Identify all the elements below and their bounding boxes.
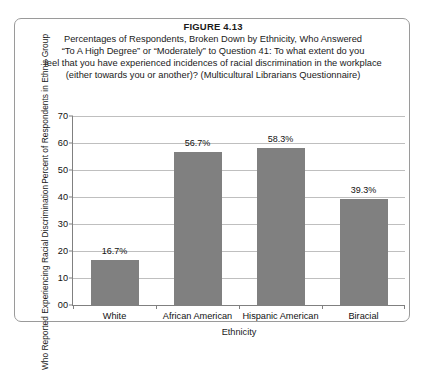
x-category-label: Biracial xyxy=(348,311,378,322)
bar[interactable] xyxy=(340,199,388,305)
x-tick-mark xyxy=(239,305,240,309)
figure-container: FIGURE 4.13 Percentages of Respondents, … xyxy=(14,18,410,322)
figure-caption-line-3: feel that you have experienced incidence… xyxy=(15,57,411,69)
plot-area: 0010203040506070 16.7%56.7%58.3%39.3% Wh… xyxy=(73,116,405,305)
plot-inner: 0010203040506070 16.7%56.7%58.3%39.3% Wh… xyxy=(73,116,405,305)
x-tick-mark xyxy=(73,305,74,309)
bar[interactable] xyxy=(174,152,222,305)
bar-value-label: 16.7% xyxy=(102,246,128,256)
x-tick-mark xyxy=(156,305,157,309)
bar-slot: 16.7% xyxy=(73,116,156,305)
bar-chart: Percent of Respondents in Ethnic Group W… xyxy=(15,91,411,323)
bar-slot: 58.3% xyxy=(239,116,322,305)
figure-number-label: FIGURE 4.13 xyxy=(15,21,411,33)
bar[interactable] xyxy=(257,148,305,305)
bar-value-label: 56.7% xyxy=(185,138,211,148)
figure-caption-line-1: Percentages of Respondents, Broken Down … xyxy=(15,33,411,45)
bar-slot: 56.7% xyxy=(156,116,239,305)
y-tick-label: 10 xyxy=(58,273,68,283)
x-axis-title: Ethnicity xyxy=(73,327,405,338)
y-tick-label: 70 xyxy=(58,111,68,121)
x-category-label: White xyxy=(103,311,127,322)
x-tick-mark xyxy=(404,305,405,309)
x-tick-mark xyxy=(322,305,323,309)
figure-caption-line-2: “To A High Degree” or “Moderately” to Qu… xyxy=(15,45,411,57)
y-axis-title-line-1: Percent of Respondents in Ethnic Group xyxy=(40,34,50,184)
y-tick-label: 50 xyxy=(58,165,68,175)
figure-title-block: FIGURE 4.13 Percentages of Respondents, … xyxy=(15,21,411,81)
y-axis-title-line-2: Who Reported Experiencing Racial Discrim… xyxy=(40,185,50,370)
y-tick-label: 30 xyxy=(58,219,68,229)
figure-caption-line-4: (either towards you or another)? (Multic… xyxy=(15,69,411,81)
x-category-label: African American xyxy=(163,311,232,322)
y-axis-title: Percent of Respondents in Ethnic Group W… xyxy=(30,94,60,310)
bar[interactable] xyxy=(91,260,139,305)
bar-value-label: 39.3% xyxy=(351,185,377,195)
y-tick-label: 40 xyxy=(58,192,68,202)
y-tick-label: 20 xyxy=(58,246,68,256)
y-tick-label: 00 xyxy=(58,300,68,310)
x-category-label: Hispanic American xyxy=(242,311,318,322)
bar-value-label: 58.3% xyxy=(268,134,294,144)
y-tick-label: 60 xyxy=(58,138,68,148)
bar-slot: 39.3% xyxy=(322,116,405,305)
